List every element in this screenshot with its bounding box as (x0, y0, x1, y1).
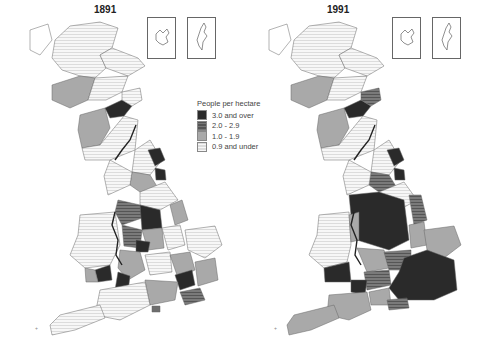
legend-label: 0.9 and under (212, 142, 258, 151)
legend-swatch (197, 142, 207, 152)
legend-item-under09: 0.9 and under (197, 142, 307, 153)
legend-swatch (197, 121, 207, 131)
choropleth-map-1991: + (239, 0, 478, 347)
legend-swatch (197, 110, 207, 120)
map-panel-1891: 1891 (0, 0, 239, 347)
legend-label: 1.0 - 1.9 (212, 132, 240, 141)
legend-title: People per hectare (197, 99, 307, 108)
legend: People per hectare 3.0 and over 2.0 - 2.… (197, 99, 307, 152)
map-panel-1991: 1991 (239, 0, 478, 347)
legend-item-3plus: 3.0 and over (197, 110, 307, 121)
legend-item-1to19: 1.0 - 1.9 (197, 131, 307, 142)
legend-swatch (197, 131, 207, 141)
legend-label: 2.0 - 2.9 (212, 121, 240, 130)
svg-text:+: + (274, 325, 277, 331)
legend-item-2to29: 2.0 - 2.9 (197, 121, 307, 132)
svg-text:+: + (35, 325, 38, 331)
legend-label: 3.0 and over (212, 111, 254, 120)
choropleth-map-1891: + (0, 0, 239, 347)
